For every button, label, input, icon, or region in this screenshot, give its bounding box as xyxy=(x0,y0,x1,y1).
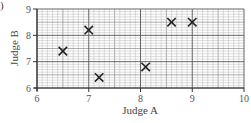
y-tick-label: 9 xyxy=(26,4,31,15)
y-axis-ticks: 6789 xyxy=(26,4,37,94)
y-tick-label: 7 xyxy=(26,56,31,67)
x-tick-label: 8 xyxy=(138,93,143,104)
x-axis-ticks: 678910 xyxy=(35,88,250,104)
x-tick-label: 9 xyxy=(190,93,195,104)
x-axis-label: Judge A xyxy=(122,104,158,116)
y-axis-label: Judge B xyxy=(8,30,20,66)
x-tick-label: 7 xyxy=(86,93,91,104)
y-tick-label: 8 xyxy=(26,30,31,41)
x-tick-label: 10 xyxy=(239,93,249,104)
y-tick-label: 6 xyxy=(26,83,31,94)
scatter-chart: 678910 6789 Judge A Judge B xyxy=(0,0,251,123)
x-tick-label: 6 xyxy=(35,93,40,104)
axes xyxy=(34,9,244,91)
